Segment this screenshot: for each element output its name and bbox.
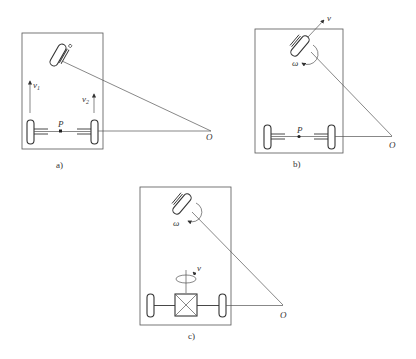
label-omega: ω — [292, 58, 298, 68]
right-wheel — [219, 294, 226, 317]
differential-box — [175, 294, 197, 316]
left-wheel — [264, 125, 271, 149]
right-wheel — [328, 125, 335, 149]
midpoint-p — [59, 130, 62, 133]
caster-wheel — [49, 40, 73, 70]
radius-line — [192, 212, 283, 305]
omega-arc — [302, 45, 318, 65]
label-o: O — [389, 140, 396, 150]
midpoint-p — [297, 135, 300, 138]
kinematics-diagram: P v1 v2 O a) v ω P O b) — [0, 0, 416, 359]
caption-c: c) — [188, 331, 195, 341]
label-omega: ω — [173, 218, 179, 228]
left-wheel — [27, 120, 34, 144]
right-wheel — [91, 120, 98, 144]
velocity-arrow — [308, 20, 324, 37]
panel-c: ω v O c) — [140, 187, 287, 341]
omega-arc — [188, 203, 202, 222]
caster-wheel — [286, 32, 311, 58]
label-o: O — [206, 132, 213, 142]
panel-a: P v1 v2 O a) — [22, 33, 213, 170]
caption-b: b) — [293, 159, 301, 169]
label-v: v — [327, 13, 331, 23]
label-p: P — [57, 119, 64, 129]
label-drive-v: v — [197, 263, 201, 273]
label-v1: v1 — [33, 80, 40, 91]
label-o: O — [280, 310, 287, 320]
drive-rotation-arrow — [193, 272, 196, 275]
label-v2: v2 — [82, 94, 89, 105]
caption-a: a) — [56, 160, 63, 170]
label-p: P — [296, 125, 303, 135]
panel-b: v ω P O b) — [255, 13, 396, 169]
caster-wheel — [168, 190, 193, 216]
left-wheel — [147, 294, 154, 317]
radius-line — [311, 52, 392, 136]
